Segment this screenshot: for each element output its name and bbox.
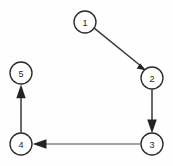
edge-group	[16, 28, 157, 149]
node-3-label: 3	[149, 140, 154, 150]
diagram-canvas: 1 2 3 4 5	[0, 0, 173, 166]
arrowhead-4-5	[16, 85, 25, 99]
node-3[interactable]: 3	[141, 133, 163, 155]
node-4-label: 4	[18, 140, 23, 150]
arrowhead-2-3	[147, 120, 157, 134]
edge-2-to-3[interactable]	[147, 90, 157, 134]
edge-line-1-2	[94, 28, 141, 66]
node-5[interactable]: 5	[10, 62, 32, 84]
edge-3-to-4[interactable]	[33, 139, 141, 148]
node-2[interactable]: 2	[141, 67, 163, 89]
node-1[interactable]: 1	[74, 11, 96, 33]
directed-graph-svg: 1 2 3 4 5	[0, 0, 173, 166]
edge-4-to-5[interactable]	[16, 85, 25, 133]
node-2-label: 2	[149, 74, 154, 84]
node-4[interactable]: 4	[10, 133, 32, 155]
edge-1-to-2[interactable]	[94, 28, 146, 70]
arrowhead-3-4	[33, 139, 47, 148]
node-group: 1 2 3 4 5	[10, 11, 163, 155]
node-1-label: 1	[82, 18, 87, 28]
node-5-label: 5	[18, 69, 23, 79]
